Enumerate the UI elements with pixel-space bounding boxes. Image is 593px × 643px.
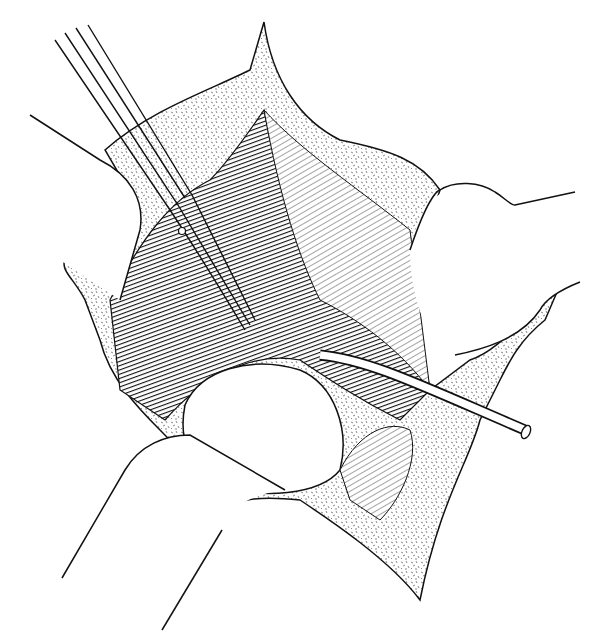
illustration-svg — [0, 0, 593, 643]
scissors-pivot-icon — [179, 228, 186, 235]
surgical-illustration — [0, 0, 593, 643]
